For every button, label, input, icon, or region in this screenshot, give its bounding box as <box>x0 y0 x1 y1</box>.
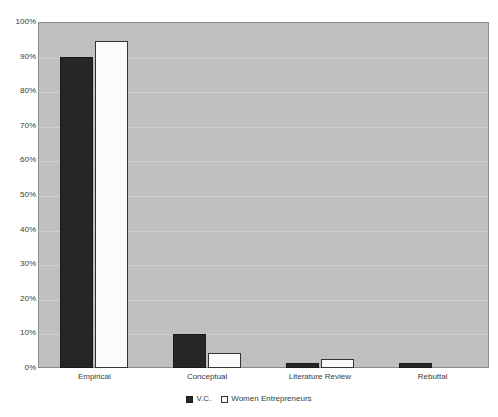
y-tick-label-70: 70% <box>2 122 36 130</box>
bar-chart: 100% 90% 80% 70% 60% 50% 40% 30% 20% 10%… <box>0 0 498 417</box>
y-tick-label-40: 40% <box>2 226 36 234</box>
y-tick-label-60: 60% <box>2 156 36 164</box>
y-axis: 100% 90% 80% 70% 60% 50% 40% 30% 20% 10%… <box>0 0 36 417</box>
y-tick-label-90: 90% <box>2 53 36 61</box>
bar-conceptual-women-entrepreneurs <box>208 353 241 368</box>
y-tick-label-10: 10% <box>2 329 36 337</box>
bar-literature-review-vc <box>286 363 319 368</box>
x-tick-label-empirical: Empirical <box>38 372 151 382</box>
bars-layer <box>38 22 489 368</box>
y-tick-label-100: 100% <box>2 18 36 26</box>
y-tick-label-80: 80% <box>2 87 36 95</box>
y-tick-label-30: 30% <box>2 260 36 268</box>
legend-label-women-entrepreneurs: Women Entrepreneurs <box>231 394 311 404</box>
x-axis-labels: Empirical Conceptual Literature Review R… <box>38 372 489 386</box>
y-tick-label-50: 50% <box>2 191 36 199</box>
x-tick-label-rebuttal: Rebuttal <box>376 372 489 382</box>
bar-conceptual-vc <box>173 334 206 368</box>
legend-swatch-icon-women-entrepreneurs <box>221 396 228 403</box>
bar-literature-review-women-entrepreneurs <box>321 359 354 368</box>
legend: V.C. Women Entrepreneurs <box>0 394 498 404</box>
x-tick-label-conceptual: Conceptual <box>151 372 264 382</box>
legend-swatch-icon-vc <box>186 396 193 403</box>
legend-entry-vc: V.C. <box>186 394 211 404</box>
y-tick-label-0: 0% <box>2 364 36 372</box>
legend-label-vc: V.C. <box>196 394 211 404</box>
legend-entry-women-entrepreneurs: Women Entrepreneurs <box>221 394 311 404</box>
x-tick-label-literature-review: Literature Review <box>264 372 377 382</box>
bar-empirical-vc <box>60 57 93 368</box>
bar-rebuttal-vc <box>399 363 432 368</box>
bar-empirical-women-entrepreneurs <box>95 41 128 368</box>
y-tick-label-20: 20% <box>2 295 36 303</box>
